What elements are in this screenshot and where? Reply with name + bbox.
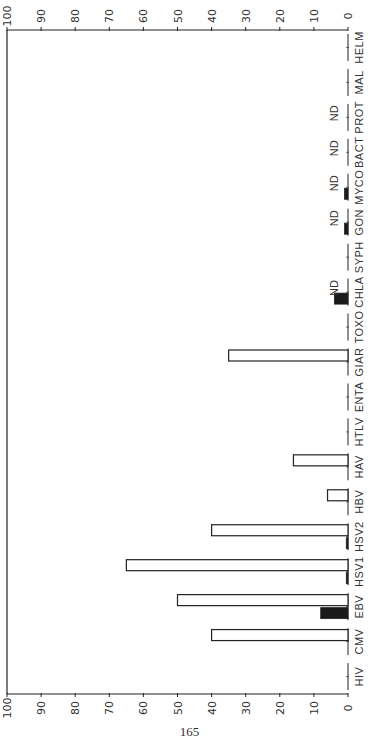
- category-label-syph: SYPH: [353, 241, 365, 273]
- category-label-cmv: CMV: [353, 628, 365, 654]
- bar-solid-gon: [345, 223, 348, 234]
- bottom-tick-label: 0: [342, 705, 355, 712]
- category-label-enta: ENTA: [353, 382, 365, 413]
- category-label-giar: GIAR: [353, 348, 365, 377]
- nd-annotation: ND: [328, 280, 340, 296]
- bar-solid-hsv2: [346, 538, 348, 549]
- bar-open-hsv1: [126, 560, 348, 571]
- bar-open-cmv: [212, 630, 348, 641]
- category-label-hsv2: HSV2: [353, 521, 365, 552]
- bottom-tick-label: 50: [172, 701, 185, 715]
- bottom-tick-label: 100: [1, 698, 14, 719]
- nd-annotation: ND: [328, 140, 340, 156]
- top-tick-label: 70: [103, 9, 116, 23]
- top-tick-label: 40: [206, 9, 219, 23]
- top-tick-label: 10: [308, 9, 321, 23]
- category-label-ebv: EBV: [353, 595, 365, 619]
- nd-annotation: ND: [328, 105, 340, 121]
- category-label-prot: PROT: [353, 101, 365, 134]
- category-label-helm: HELM: [353, 31, 365, 64]
- top-tick-label: 30: [240, 9, 253, 23]
- top-tick-label: 20: [274, 9, 287, 23]
- bottom-tick-label: 60: [137, 701, 150, 715]
- bottom-tick-label: 80: [69, 701, 82, 715]
- bar-solid-hsv1: [346, 573, 348, 584]
- page-number: 165: [0, 724, 379, 740]
- bar-open-hsv2: [212, 525, 348, 536]
- top-tick-label: 90: [35, 9, 48, 23]
- category-label-myco: MYCO: [353, 170, 365, 205]
- top-tick-label: 0: [342, 13, 355, 20]
- bottom-tick-label: 90: [35, 701, 48, 715]
- bottom-tick-label: 40: [206, 701, 219, 715]
- category-label-hsv1: HSV1: [353, 556, 365, 587]
- top-tick-label: 60: [137, 9, 150, 23]
- bottom-tick-label: 10: [308, 701, 321, 715]
- top-tick-label: 50: [172, 9, 185, 23]
- bar-open-ebv: [178, 595, 349, 606]
- nd-annotation: ND: [328, 210, 340, 226]
- bar-chart: 0010102020303040405050606070708080909010…: [0, 0, 379, 754]
- category-label-chla: CHLA: [353, 276, 365, 308]
- category-label-toxo: TOXO: [353, 311, 365, 344]
- category-label-hiv: HIV: [353, 666, 365, 686]
- category-label-htlv: HTLV: [353, 417, 365, 446]
- bar-open-hav: [293, 455, 348, 466]
- bar-open-hbv: [328, 490, 348, 501]
- category-label-bact: BACT: [353, 137, 365, 168]
- category-label-mal: MAL: [353, 70, 365, 94]
- bar-open-giar: [229, 350, 348, 361]
- chart-bars: [126, 188, 348, 640]
- top-tick-label: 80: [69, 9, 82, 23]
- category-label-hav: HAV: [353, 455, 365, 478]
- category-label-gon: GON: [353, 209, 365, 236]
- category-label-hbv: HBV: [353, 490, 365, 514]
- chart-labels: 0010102020303040405050606070708080909010…: [1, 6, 365, 719]
- bottom-tick-label: 30: [240, 701, 253, 715]
- bottom-tick-label: 20: [274, 701, 287, 715]
- nd-annotation: ND: [328, 175, 340, 191]
- top-tick-label: 100: [1, 6, 14, 27]
- bar-solid-ebv: [321, 608, 348, 619]
- bar-solid-myco: [345, 188, 348, 199]
- bottom-tick-label: 70: [103, 701, 116, 715]
